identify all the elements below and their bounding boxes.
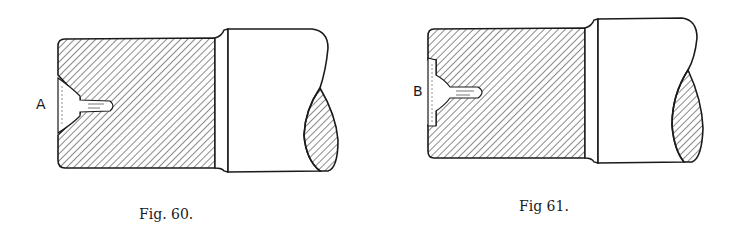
fig-60-caption: Fig. 60. <box>139 206 193 222</box>
fig-61-collar <box>585 19 598 163</box>
fig-61-caption: Fig 61. <box>519 198 569 214</box>
figures-canvas <box>0 0 738 236</box>
fig-61-drawing <box>428 18 703 163</box>
fig-60-label: A <box>36 96 46 112</box>
fig-60-collar <box>215 29 228 172</box>
fig-60-drawing <box>58 29 338 172</box>
fig-61-label: B <box>413 83 423 99</box>
